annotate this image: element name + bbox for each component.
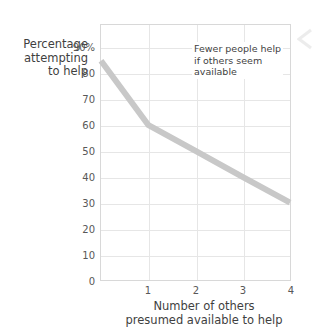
x-axis-title-line-1: Number of others — [95, 299, 313, 313]
y-tick-label-30: 30 — [60, 198, 99, 209]
x-axis-title-line-2: presumed available to help — [95, 313, 313, 327]
x-axis-title: Number of others presumed available to h… — [0, 299, 313, 327]
y-tick-label-90: 90% — [60, 42, 99, 53]
annotation-line-3: available — [194, 66, 281, 78]
series-polyline — [101, 61, 290, 203]
y-axis-tick-labels: 90% 80 70 60 50 40 30 20 10 0 — [60, 0, 99, 336]
chart-figure: Percentage attempting to help 90% 80 70 … — [0, 0, 313, 336]
y-tick-label-40: 40 — [60, 172, 99, 183]
y-tick-label-10: 10 — [60, 250, 99, 261]
annotation-line-2: if others seem — [194, 55, 281, 67]
annotation-line-1: Fewer people help — [194, 43, 281, 55]
x-tick-label-3: 3 — [240, 285, 246, 296]
x-tick-label-2: 2 — [193, 285, 199, 296]
y-tick-label-80: 80 — [60, 68, 99, 79]
plot-area: Fewer people help if others seem availab… — [100, 24, 291, 281]
y-tick-label-70: 70 — [60, 94, 99, 105]
chart-annotation: Fewer people help if others seem availab… — [192, 42, 283, 79]
x-tick-label-4: 4 — [288, 285, 294, 296]
chevron-left-icon — [297, 28, 313, 50]
y-tick-label-60: 60 — [60, 120, 99, 131]
y-tick-label-20: 20 — [60, 224, 99, 235]
y-tick-label-0: 0 — [60, 276, 99, 287]
x-tick-label-1: 1 — [145, 285, 151, 296]
y-tick-label-50: 50 — [60, 146, 99, 157]
